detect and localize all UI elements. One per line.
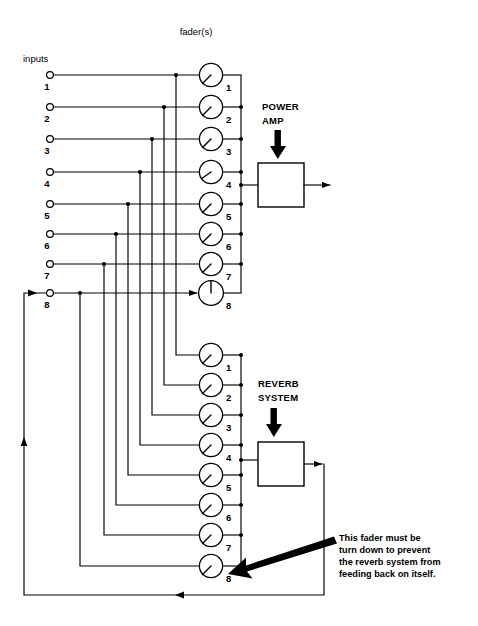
- aux-fader-2[interactable]: 2: [199, 373, 243, 403]
- reverb-system-box: [258, 442, 304, 486]
- main-fader-1[interactable]: 1: [199, 63, 241, 93]
- annotation-line-1: This fader must be: [339, 533, 421, 543]
- input-label-6: 6: [44, 240, 49, 251]
- main-fader-label-8: 8: [226, 300, 231, 311]
- aux-fader-label-5: 5: [226, 482, 232, 493]
- main-fader-label-3: 3: [226, 146, 231, 157]
- aux-fader-3[interactable]: 3: [199, 403, 243, 433]
- annotation-arrow: [228, 537, 337, 579]
- aux-send-path-3: [150, 137, 199, 415]
- input-label-5: 5: [44, 210, 50, 221]
- input-label-4: 4: [44, 178, 50, 189]
- reverb-label-line2: SYSTEM: [258, 392, 298, 403]
- aux-fader-label-8: 8: [226, 573, 231, 584]
- main-fader-label-6: 6: [226, 241, 231, 252]
- main-fader-label-4: 4: [226, 179, 232, 190]
- aux-send-path-4: [138, 170, 199, 445]
- power-amp-label-line2: AMP: [262, 115, 284, 126]
- mixer-routing-schematic: fader(s) inputs 1 2 3 4: [0, 0, 478, 626]
- reverb-system-block: REVERB SYSTEM: [258, 378, 304, 486]
- aux-send-path-5: [126, 202, 199, 475]
- aux-send-path-8: [78, 291, 199, 566]
- aux-send-path-2: [162, 105, 199, 385]
- main-fader-label-5: 5: [226, 211, 232, 222]
- inputs-section-label: inputs: [23, 53, 49, 64]
- annotation-line-3: the reverb system from: [339, 557, 441, 567]
- return-arrow-bottom: [175, 592, 184, 599]
- input-row-8: 8: [44, 290, 197, 310]
- main-fader-2[interactable]: 2: [199, 95, 243, 125]
- aux-send-path-1: [174, 73, 199, 355]
- main-fader-3[interactable]: 3: [199, 127, 243, 157]
- aux-fader-4[interactable]: 4: [199, 433, 243, 463]
- main-fader-label-7: 7: [226, 271, 231, 282]
- main-fader-8[interactable]: 8: [199, 281, 241, 311]
- aux-fader-label-4: 4: [226, 452, 232, 463]
- power-amp-block: POWER AMP: [258, 101, 330, 207]
- aux-bus-wire-4: [140, 172, 199, 445]
- power-amp-label-line1: POWER: [262, 101, 299, 112]
- return-arrow-into-input8: [28, 290, 37, 297]
- aux-fader-label-1: 1: [226, 362, 232, 373]
- main-fader-bank: 1 2 3 4: [199, 63, 258, 311]
- input-terminal-3[interactable]: [47, 136, 54, 143]
- aux-fader-label-3: 3: [226, 422, 231, 433]
- input-terminal-8[interactable]: [47, 290, 54, 297]
- aux-fader-1[interactable]: 1: [199, 343, 243, 373]
- input-label-2: 2: [44, 113, 49, 124]
- fader-section-title: fader(s): [180, 26, 213, 37]
- reverb-label-line1: REVERB: [258, 378, 299, 389]
- power-amp-box: [258, 163, 304, 207]
- main-fader-4[interactable]: 4: [199, 160, 243, 190]
- return-arrow-left: [21, 437, 28, 446]
- main-fader-6[interactable]: 6: [199, 222, 243, 252]
- input-label-8: 8: [44, 299, 49, 310]
- aux-fader-5[interactable]: 5: [199, 463, 243, 493]
- aux-fader-label-6: 6: [226, 512, 231, 523]
- main-fader-5[interactable]: 5: [199, 192, 243, 222]
- input-label-3: 3: [44, 145, 49, 156]
- aux-send-path-6: [114, 232, 199, 505]
- input-label-7: 7: [44, 270, 49, 281]
- annotation-line-2: turn down to prevent: [339, 545, 430, 555]
- aux-bus-wire-1: [176, 75, 199, 355]
- aux-fader-label-7: 7: [226, 542, 231, 553]
- annotation-callout: This fader must be turn down to prevent …: [228, 533, 441, 579]
- schematic-diagram: fader(s) inputs 1 2 3 4: [0, 0, 478, 626]
- aux-fader-6[interactable]: 6: [199, 493, 243, 523]
- input-terminal-6[interactable]: [47, 231, 54, 238]
- input-terminal-7[interactable]: [47, 261, 54, 268]
- power-amp-callout-arrow: [270, 130, 286, 159]
- aux-fader-7[interactable]: 7: [199, 523, 243, 553]
- input-terminal-4[interactable]: [47, 169, 54, 176]
- main-fader-label-2: 2: [226, 114, 231, 125]
- input-label-1: 1: [44, 81, 50, 92]
- aux-send-bus-group: [78, 73, 199, 566]
- aux-fader-bank: 1 2 3 4: [199, 343, 258, 584]
- aux-fader-label-2: 2: [226, 392, 231, 403]
- main-fader-7[interactable]: 7: [199, 252, 243, 282]
- input-terminal-2[interactable]: [47, 104, 54, 111]
- main-fader-label-1: 1: [226, 82, 232, 93]
- input-terminal-1[interactable]: [47, 72, 54, 79]
- annotation-line-4: feeding back on itself.: [339, 569, 436, 579]
- input-terminal-5[interactable]: [47, 201, 54, 208]
- reverb-callout-arrow: [266, 408, 282, 437]
- aux-bus-wire-2: [164, 107, 199, 385]
